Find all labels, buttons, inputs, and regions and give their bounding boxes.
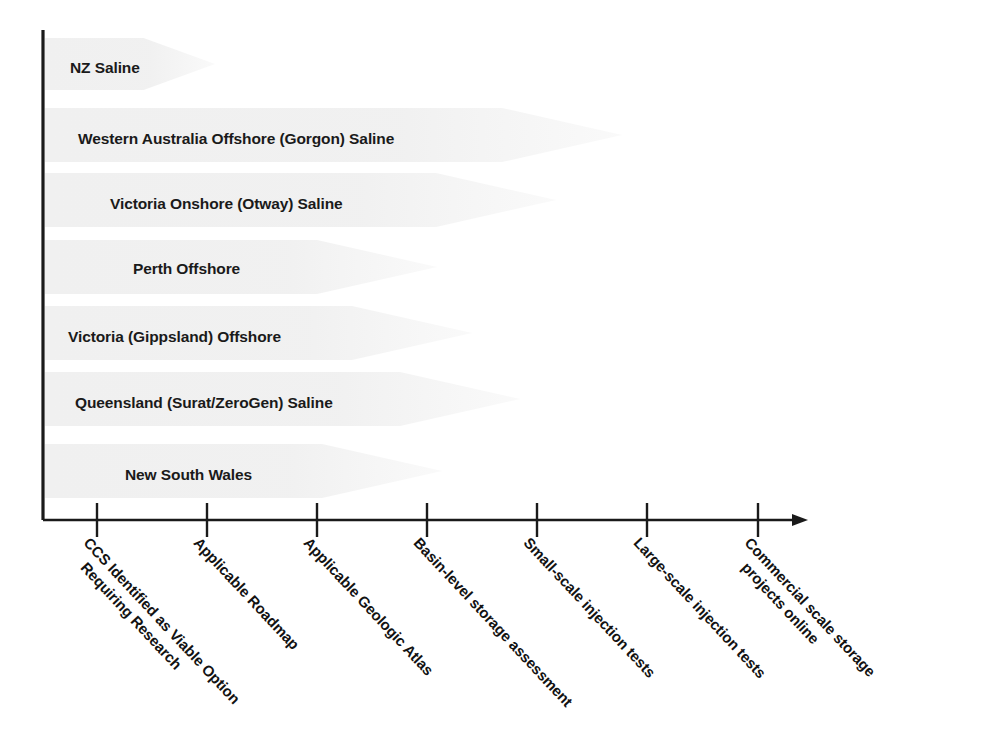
bar-label: Victoria Onshore (Otway) Saline — [110, 196, 343, 212]
chart-container: NZ SalineWestern Australia Offshore (Gor… — [0, 0, 991, 730]
bar-label: New South Wales — [125, 467, 252, 483]
bar-label: NZ Saline — [70, 60, 140, 76]
bar-arrow[interactable] — [45, 240, 437, 294]
bar-label: Victoria (Gippsland) Offshore — [68, 329, 281, 345]
bar-label: Western Australia Offshore (Gorgon) Sali… — [78, 131, 394, 147]
bar-label: Perth Offshore — [133, 261, 240, 277]
bar-label: Queensland (Surat/ZeroGen) Saline — [75, 395, 333, 411]
bars-group — [45, 38, 622, 498]
x-axis-arrowhead-icon — [792, 514, 808, 526]
